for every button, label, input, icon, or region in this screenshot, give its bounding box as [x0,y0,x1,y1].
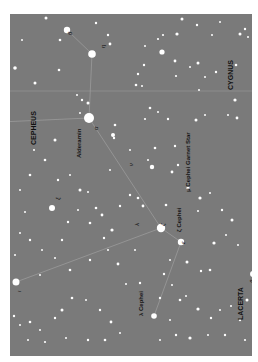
star[interactable] [162,34,164,36]
star[interactable] [175,32,178,35]
star[interactable] [77,209,79,211]
star[interactable] [185,295,187,297]
star[interactable] [212,241,215,244]
star[interactable] [129,149,131,151]
star[interactable] [103,237,105,239]
star[interactable] [69,174,71,176]
star[interactable] [109,43,112,46]
star[interactable] [171,284,173,286]
star[interactable] [159,49,164,54]
star[interactable] [154,147,157,150]
star[interactable] [57,179,59,181]
star[interactable] [231,219,234,222]
star[interactable] [81,99,83,101]
star[interactable] [209,269,212,272]
star[interactable] [39,274,41,276]
star[interactable] [221,209,223,211]
star[interactable] [84,113,94,123]
star[interactable] [174,60,177,63]
star[interactable] [113,137,115,139]
star[interactable] [85,299,87,301]
star[interactable] [104,339,107,342]
star[interactable] [157,111,159,113]
star[interactable] [219,21,221,23]
star[interactable] [247,36,249,38]
star[interactable] [150,165,154,169]
star[interactable] [117,263,120,266]
star[interactable] [21,39,23,41]
star[interactable] [24,211,26,213]
star[interactable] [219,309,221,311]
star[interactable] [175,75,177,77]
star[interactable] [34,82,37,85]
star[interactable] [139,282,141,284]
star[interactable] [144,45,146,47]
star[interactable] [215,71,217,73]
star[interactable] [197,62,200,65]
star[interactable] [209,192,211,194]
star[interactable] [111,133,115,137]
star[interactable] [87,339,89,341]
star[interactable] [109,169,111,171]
star[interactable] [13,315,15,317]
star[interactable] [54,139,57,142]
star[interactable] [244,339,246,341]
star[interactable] [107,34,109,36]
star[interactable] [119,332,121,334]
star[interactable] [200,270,202,272]
star[interactable] [157,38,159,40]
star[interactable] [95,22,97,24]
star[interactable] [175,334,177,336]
star[interactable] [89,259,91,261]
star[interactable] [135,84,138,87]
star[interactable] [99,309,101,311]
star[interactable] [19,324,21,326]
star[interactable] [141,85,143,87]
star[interactable] [210,317,212,319]
star[interactable] [114,124,117,127]
star[interactable] [197,210,199,212]
star[interactable] [49,205,55,211]
star[interactable] [134,249,136,251]
star[interactable] [76,94,78,96]
star[interactable] [207,334,209,336]
star[interactable] [33,149,35,151]
star[interactable] [179,299,182,302]
star[interactable] [101,214,104,217]
star[interactable] [13,66,17,70]
star[interactable] [125,283,127,285]
star[interactable] [198,196,201,199]
star[interactable] [149,107,152,110]
star[interactable] [29,321,32,324]
star[interactable] [233,98,236,101]
star[interactable] [227,114,229,116]
star[interactable] [188,336,191,339]
star[interactable] [239,33,242,36]
star[interactable] [79,112,81,114]
star[interactable] [71,297,74,300]
star[interactable] [204,76,206,78]
star[interactable] [14,254,16,256]
star[interactable] [27,339,29,341]
star[interactable] [29,239,31,241]
star[interactable] [224,334,226,336]
star[interactable] [137,197,140,200]
star[interactable] [143,64,145,66]
star[interactable] [87,191,89,193]
star[interactable] [159,339,161,341]
star[interactable] [13,279,20,286]
star[interactable] [235,64,238,67]
star[interactable] [45,17,48,20]
star[interactable] [41,249,43,251]
star[interactable] [79,189,82,192]
star[interactable] [29,174,32,177]
star[interactable] [250,271,252,277]
star[interactable] [61,309,64,312]
star[interactable] [44,159,47,162]
star[interactable] [165,204,168,207]
star[interactable] [59,39,62,42]
star[interactable] [54,257,56,259]
star[interactable] [107,249,109,251]
star[interactable] [177,164,179,166]
star[interactable] [196,307,199,310]
